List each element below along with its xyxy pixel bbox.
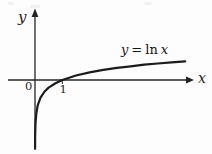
unit-tick-label: 1 [60, 84, 67, 96]
ln-curve [35, 61, 185, 148]
plot-canvas [0, 0, 212, 154]
origin-label: 0 [25, 81, 32, 93]
curve-equation-label: y = ln x [121, 43, 168, 56]
paper-smudge [144, 2, 152, 5]
ln-function-figure: y x 0 1 y = ln x [0, 0, 212, 154]
y-axis-arrowhead [32, 9, 39, 18]
x-axis-label: x [198, 71, 206, 85]
equation-argument: x [161, 43, 168, 56]
equation-equals: = [131, 43, 142, 56]
equation-function: ln [145, 43, 158, 56]
y-axis-label: y [18, 10, 26, 25]
equation-lhs: y [121, 43, 128, 56]
paper-smudge [30, 5, 40, 8]
paper-smudge [8, 2, 14, 5]
x-axis-arrowhead [186, 77, 194, 84]
